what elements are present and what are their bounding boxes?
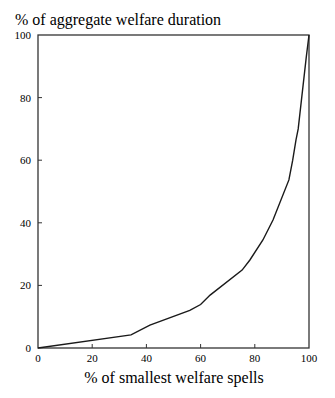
y-axis-title: % of aggregate welfare duration [15,11,221,29]
x-tick-label: 20 [87,352,99,364]
plot-frame [38,35,309,348]
y-tick-label: 100 [15,29,32,41]
y-tick-label: 20 [20,279,32,291]
lorenz-curve-line [38,35,309,348]
y-tick-label: 60 [20,154,32,166]
y-tick-label: 0 [26,342,32,354]
x-axis-title: % of smallest welfare spells [84,369,264,387]
x-tick-label: 60 [195,352,207,364]
x-tick-label: 100 [301,352,318,364]
x-tick-label: 40 [141,352,153,364]
x-axis-ticks: 020406080100 [35,344,318,364]
x-tick-label: 80 [249,352,261,364]
y-tick-label: 80 [20,92,32,104]
y-tick-label: 40 [20,217,32,229]
x-tick-label: 0 [35,352,41,364]
chart-canvas: % of aggregate welfare duration 02040608… [0,0,335,398]
